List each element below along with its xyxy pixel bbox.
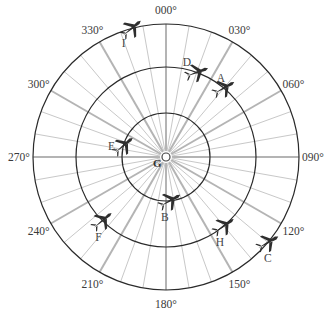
aircraft-label: I: [122, 37, 126, 49]
bearing-label: 210°: [82, 278, 104, 290]
bearing-label: 180°: [155, 298, 177, 310]
bearing-label: 240°: [28, 225, 50, 237]
bearing-spoke: [167, 26, 189, 151]
bearing-spoke: [171, 160, 281, 224]
bearing-spoke: [172, 134, 297, 156]
bearing-label: 150°: [229, 278, 251, 290]
bearing-spoke: [169, 42, 233, 152]
bearing-spoke: [172, 158, 297, 180]
aircraft-label: E: [108, 140, 115, 152]
radar-diagram: G 000°030°060°090°120°150°180°210°240°27…: [0, 0, 331, 314]
bearing-spoke: [100, 162, 164, 272]
bearing-label: 060°: [282, 78, 304, 90]
bearing-spoke: [143, 26, 165, 151]
bearing-label: 120°: [282, 225, 304, 237]
aircraft-f: F: [87, 206, 117, 243]
bearing-label: 300°: [28, 78, 50, 90]
bearing-label: 330°: [82, 24, 104, 36]
aircraft-label: D: [183, 56, 191, 68]
aircraft-h: H: [209, 212, 239, 248]
bearing-label: 030°: [229, 24, 251, 36]
bearing-spoke: [51, 160, 161, 224]
aircraft-label: F: [95, 231, 101, 243]
bearing-spoke: [167, 163, 189, 288]
aircraft-label: A: [217, 72, 226, 84]
bearing-label: 090°: [302, 151, 324, 163]
bearing-spoke: [35, 158, 160, 180]
aircraft-label: C: [264, 252, 272, 264]
center-label: G: [153, 157, 162, 169]
bearing-spoke: [100, 42, 164, 152]
bearing-spoke: [171, 91, 281, 155]
aircraft-label: H: [216, 236, 224, 248]
bearing-label: 270°: [8, 151, 30, 163]
aircraft-d: D: [182, 56, 211, 85]
aircraft-label: B: [161, 211, 169, 223]
bearing-label: 000°: [155, 4, 177, 16]
bearing-spoke: [143, 163, 165, 288]
center-marker: [162, 153, 170, 161]
bearing-spoke: [35, 134, 160, 156]
bearing-spoke: [51, 91, 161, 155]
bearing-spoke: [169, 162, 233, 272]
